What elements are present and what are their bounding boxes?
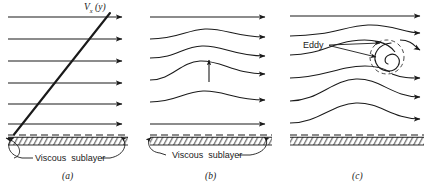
streamline xyxy=(290,25,420,36)
turbulent-boundary-layer-figure: Vx (y) Viscous sublayer (a) xyxy=(0,0,431,185)
eddy-leader-upper xyxy=(329,43,380,45)
wall-hatch-band xyxy=(8,137,128,145)
wall-hatch-band xyxy=(150,137,272,145)
eddy-label: Eddy xyxy=(303,40,324,50)
panel-a: Vx (y) Viscous sublayer (a) xyxy=(6,2,128,182)
sublayer-leader-left-stem xyxy=(160,153,166,155)
velocity-profile-label: Vx (y) xyxy=(84,2,106,14)
streamline xyxy=(150,61,265,80)
viscous-sublayer-label-b: Viscous sublayer xyxy=(172,150,242,160)
wall-hatch-band xyxy=(290,137,424,145)
figure-canvas: Vx (y) Viscous sublayer (a) xyxy=(0,0,431,185)
streamline-eddy-exit xyxy=(400,40,420,50)
eddy-leader-lower xyxy=(329,46,376,58)
panel-b: Viscous sublayer (b) xyxy=(149,17,272,182)
eddy-spiral xyxy=(375,43,399,71)
panel-letter-c: (c) xyxy=(352,171,363,182)
panel-letter-a: (a) xyxy=(62,171,73,182)
streamline xyxy=(290,79,420,101)
streamline xyxy=(290,66,390,78)
viscous-sublayer-label-a: Viscous sublayer xyxy=(35,153,105,163)
panel-c-streamlines xyxy=(290,16,420,123)
velocity-profile-line xyxy=(14,13,110,135)
panel-letter-b: (b) xyxy=(205,171,216,182)
panel-c: Eddy (c) xyxy=(290,16,424,182)
streamline xyxy=(290,103,420,123)
streamline xyxy=(150,29,265,39)
streamline xyxy=(392,74,420,78)
streamline xyxy=(150,46,265,58)
panel-b-streamlines xyxy=(150,17,265,124)
streamline xyxy=(150,91,265,102)
